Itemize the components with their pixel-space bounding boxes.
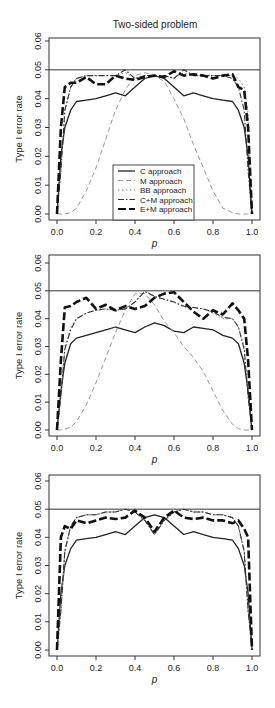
x-tick-label: 0.8 bbox=[207, 443, 220, 453]
x-axis-label: p bbox=[151, 674, 158, 685]
series-line bbox=[57, 291, 252, 430]
x-tick-label: 1.0 bbox=[246, 227, 259, 237]
legend-label: C+M approach bbox=[140, 196, 193, 205]
y-tick-label: 0.06 bbox=[33, 472, 43, 490]
y-tick-label: 0.02 bbox=[33, 148, 43, 166]
y-tick-label: 0.04 bbox=[33, 310, 43, 328]
y-tick-label: 0.04 bbox=[33, 529, 43, 547]
chart-title: Two-sided problem bbox=[113, 19, 197, 30]
series-line bbox=[57, 291, 252, 430]
x-tick-label: 1.0 bbox=[246, 663, 259, 673]
y-tick-label: 0.03 bbox=[33, 119, 43, 137]
series-line bbox=[57, 323, 252, 430]
y-axis-label: Type I error rate bbox=[13, 95, 24, 163]
panels: 0.000.010.020.030.040.050.060.00.20.40.6… bbox=[13, 32, 260, 685]
y-tick-label: 0.01 bbox=[33, 176, 43, 194]
y-tick-label: 0.06 bbox=[33, 32, 43, 50]
x-tick-label: 0.6 bbox=[168, 663, 181, 673]
x-tick-label: 0.2 bbox=[90, 663, 103, 673]
panel-3: 0.000.010.020.030.040.050.060.00.20.40.6… bbox=[13, 472, 260, 685]
x-tick-label: 0.6 bbox=[168, 443, 181, 453]
y-tick-label: 0.05 bbox=[33, 282, 43, 300]
x-tick-label: 0.2 bbox=[90, 227, 103, 237]
x-tick-label: 0.8 bbox=[207, 227, 220, 237]
x-axis-label: p bbox=[151, 454, 158, 465]
legend: C approachM approachBB approachC+M appro… bbox=[113, 165, 194, 220]
y-tick-label: 0.01 bbox=[33, 613, 43, 631]
legend-label: BB approach bbox=[140, 186, 186, 195]
x-tick-label: 0.2 bbox=[90, 443, 103, 453]
y-tick-label: 0.02 bbox=[33, 366, 43, 384]
legend-label: M approach bbox=[140, 177, 182, 186]
y-tick-label: 0.04 bbox=[33, 90, 43, 108]
y-tick-label: 0.00 bbox=[33, 641, 43, 659]
y-tick-label: 0.00 bbox=[33, 421, 43, 439]
x-tick-label: 0.4 bbox=[129, 663, 142, 673]
x-tick-label: 0.0 bbox=[51, 663, 64, 673]
legend-label: C approach bbox=[140, 167, 181, 176]
y-tick-label: 0.05 bbox=[33, 500, 43, 518]
x-tick-label: 1.0 bbox=[246, 443, 259, 453]
series-line bbox=[57, 515, 252, 650]
plot-frame bbox=[49, 255, 260, 436]
y-tick-label: 0.03 bbox=[33, 338, 43, 356]
y-tick-label: 0.02 bbox=[33, 585, 43, 603]
x-tick-label: 0.6 bbox=[168, 227, 181, 237]
y-tick-label: 0.05 bbox=[33, 61, 43, 79]
y-tick-label: 0.03 bbox=[33, 557, 43, 575]
panel-2: 0.000.010.020.030.040.050.060.00.20.40.6… bbox=[13, 254, 260, 465]
y-tick-label: 0.00 bbox=[33, 205, 43, 223]
y-tick-label: 0.01 bbox=[33, 393, 43, 411]
panel-1: 0.000.010.020.030.040.050.060.00.20.40.6… bbox=[13, 32, 260, 249]
y-tick-label: 0.06 bbox=[33, 254, 43, 272]
y-axis-label: Type I error rate bbox=[13, 532, 24, 600]
series-line bbox=[57, 511, 252, 650]
y-axis-label: Type I error rate bbox=[13, 312, 24, 380]
x-axis-label: p bbox=[151, 238, 158, 249]
x-tick-label: 0.0 bbox=[51, 227, 64, 237]
figure: Two-sided problem 0.000.010.020.030.040.… bbox=[0, 0, 275, 708]
legend-label: E+M approach bbox=[140, 205, 192, 214]
x-tick-label: 0.4 bbox=[129, 443, 142, 453]
x-tick-label: 0.8 bbox=[207, 663, 220, 673]
plot-frame bbox=[49, 475, 260, 656]
x-tick-label: 0.4 bbox=[129, 227, 142, 237]
x-tick-label: 0.0 bbox=[51, 443, 64, 453]
